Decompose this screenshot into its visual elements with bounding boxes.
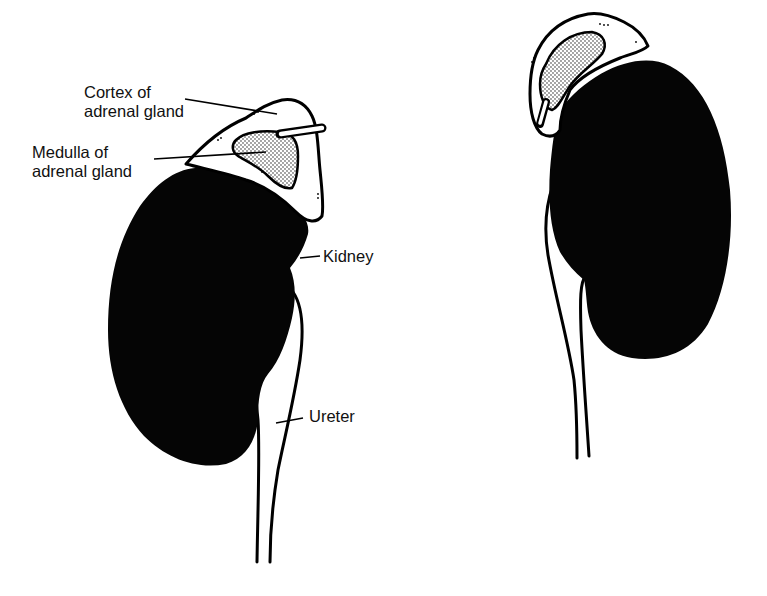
kidney-label: Kidney xyxy=(323,247,373,266)
cortex-label-line2: adrenal gland xyxy=(84,102,184,121)
cortex-label: Cortex of adrenal gland xyxy=(84,83,184,121)
ureter-label: Ureter xyxy=(309,407,355,426)
right-view xyxy=(530,13,731,458)
left-kidney xyxy=(108,167,308,465)
medulla-label-line2: adrenal gland xyxy=(32,162,132,181)
kidney-leader-line xyxy=(300,256,320,258)
left-adrenal-vein xyxy=(280,128,322,134)
right-kidney xyxy=(549,60,731,358)
medulla-label-line1: Medulla of xyxy=(32,143,132,162)
medulla-label: Medulla of adrenal gland xyxy=(32,143,132,181)
cortex-label-line1: Cortex of xyxy=(84,83,184,102)
left-view xyxy=(108,99,323,562)
